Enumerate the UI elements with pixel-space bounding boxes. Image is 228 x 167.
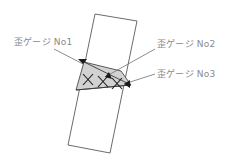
gauge-label-no3: 歪ゲージ No3 bbox=[157, 70, 215, 79]
gauge-label-no2: 歪ゲージ No2 bbox=[157, 40, 215, 49]
diagram-canvas: 歪ゲージ No1 歪ゲージ No2 歪ゲージ No3 bbox=[0, 0, 228, 167]
strain-gauge-diagram bbox=[0, 0, 228, 167]
gauge-label-no1: 歪ゲージ No1 bbox=[14, 38, 72, 47]
leader-line-no1 bbox=[54, 49, 83, 64]
